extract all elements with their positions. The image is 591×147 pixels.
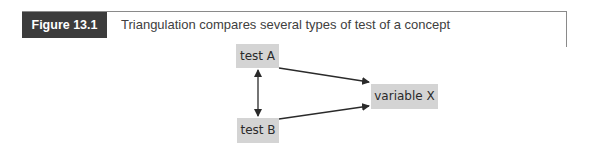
node-variable-x: variable X [371, 84, 438, 109]
figure-title: Triangulation compares several types of … [121, 17, 450, 32]
node-test-a-label: test A [236, 44, 279, 68]
arrow-test-a-to-variable-x [279, 68, 369, 82]
node-test-b: test B [237, 118, 279, 143]
node-test-b-label: test B [237, 118, 279, 143]
node-test-a: test A [236, 44, 279, 68]
arrow-test-b-to-variable-x [279, 106, 369, 119]
right-rule [566, 11, 567, 47]
figure-label: Figure 13.1 [22, 12, 107, 38]
node-variable-x-label: variable X [371, 84, 438, 109]
